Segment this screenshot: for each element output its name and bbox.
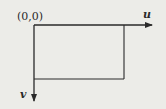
v-axis-label: v	[20, 89, 26, 100]
u-axis-label: u	[143, 9, 151, 20]
origin-label: (0,0)	[17, 11, 43, 22]
